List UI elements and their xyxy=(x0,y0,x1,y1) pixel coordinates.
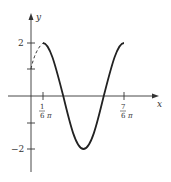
x-axis-label: x xyxy=(157,99,162,109)
x-tick1-pi: π xyxy=(46,112,52,120)
x-tick2-numerator: 7 xyxy=(121,103,125,111)
y-axis-label: y xyxy=(35,12,42,22)
y-tick-label-2: 2 xyxy=(18,38,24,48)
x-tick2-denominator: 6 xyxy=(121,112,126,120)
y-tick-label-neg2: −2 xyxy=(11,144,24,154)
x-tick2-pi: π xyxy=(127,112,133,120)
chart: y x 2 −2 1 6 π 7 6 π xyxy=(0,0,171,182)
x-tick1-numerator: 1 xyxy=(40,103,44,111)
x-tick1-denominator: 6 xyxy=(40,112,45,120)
y-axis-arrow-icon xyxy=(29,13,34,20)
x-axis-arrow-icon xyxy=(152,94,159,99)
dashed-curve xyxy=(31,43,43,69)
